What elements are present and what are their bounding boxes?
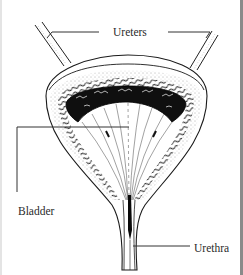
right-ureter (190, 31, 218, 70)
bladder-body (46, 55, 207, 270)
label-bladder: Bladder (18, 206, 54, 218)
bladder-illustration (2, 0, 243, 275)
diagram-frame: Ureters Bladder Urethra (0, 0, 243, 275)
left-ureter (35, 22, 71, 66)
label-urethra: Urethra (194, 243, 229, 255)
label-ureters: Ureters (113, 27, 147, 39)
